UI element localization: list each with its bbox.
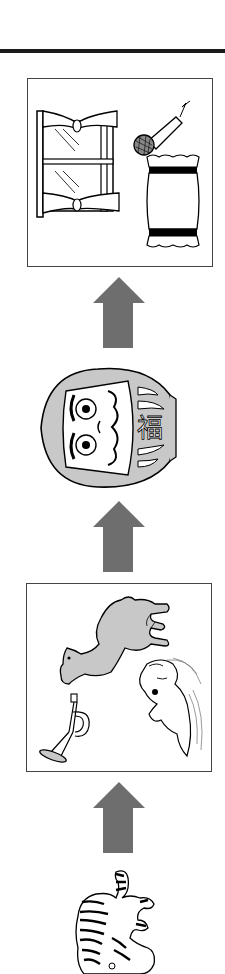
top-divider-rule: [0, 49, 225, 53]
trumpet-icon[interactable]: [33, 692, 99, 764]
daruma-kanji: 福: [137, 413, 163, 443]
up-arrow-icon: [92, 277, 146, 349]
up-arrow-icon: [92, 501, 146, 573]
pillow-icon[interactable]: [143, 151, 203, 251]
choice-box-top: [27, 78, 213, 267]
otter-icon[interactable]: [127, 654, 207, 764]
tiger-icon[interactable]: [70, 868, 170, 974]
window-icon[interactable]: [35, 109, 127, 219]
microphone-icon[interactable]: [128, 99, 198, 159]
daruma-icon[interactable]: 福: [38, 365, 178, 491]
up-arrow-icon: [92, 782, 146, 854]
choice-box-middle: [26, 583, 212, 772]
